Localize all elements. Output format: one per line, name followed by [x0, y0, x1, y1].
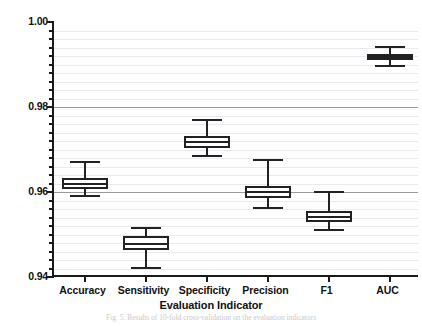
whisker-cap-upper [131, 227, 161, 229]
x-axis-label-f1: F1 [320, 284, 332, 296]
whisker-cap-lower [70, 195, 100, 197]
box-specificity [176, 22, 237, 275]
whisker-cap-upper [314, 191, 344, 193]
box-precision [237, 22, 298, 275]
box-median [245, 191, 291, 193]
x-tick-accuracy [84, 275, 86, 282]
x-tick-f1 [328, 275, 330, 282]
whisker-lower [145, 250, 147, 268]
y-tick-major [47, 276, 54, 278]
whisker-upper [145, 228, 147, 236]
y-axis-tick-label: 1.00 [28, 15, 48, 27]
figure-caption: Fig. 5. Results of 10-fold cross-validat… [0, 313, 422, 322]
whisker-cap-lower [192, 155, 222, 157]
figure-boxplot: 0.940.960.981.00 AccuracySensitivitySpec… [0, 0, 422, 327]
box-median [184, 141, 230, 143]
box-median [367, 56, 413, 58]
box-accuracy [54, 22, 115, 275]
whisker-cap-upper [192, 119, 222, 121]
x-tick-specificity [206, 275, 208, 282]
x-tick-sensitivity [145, 275, 147, 282]
box-f1 [298, 22, 359, 275]
y-axis-tick-label: 0.94 [28, 270, 48, 282]
whisker-cap-lower [375, 65, 405, 67]
plot-area [52, 22, 418, 277]
box-median [62, 183, 108, 185]
whisker-cap-lower [131, 267, 161, 269]
x-tick-auc [389, 275, 391, 282]
box-median [123, 243, 169, 245]
whisker-cap-lower [253, 207, 283, 209]
y-axis-tick-label: 0.98 [28, 100, 48, 112]
whisker-upper [389, 47, 391, 54]
x-axis-label-sensitivity: Sensitivity [118, 284, 169, 296]
box-median [306, 216, 352, 218]
whisker-upper [206, 120, 208, 136]
whisker-upper [84, 162, 86, 178]
y-axis-tick-label: 0.96 [28, 185, 48, 197]
y-tick-major [47, 106, 54, 108]
whisker-cap-upper [375, 46, 405, 48]
x-axis-label-specificity: Specificity [179, 284, 230, 296]
box-sensitivity [115, 22, 176, 275]
whisker-upper [328, 192, 330, 211]
box-auc [359, 22, 420, 275]
whisker-cap-lower [314, 229, 344, 231]
y-tick-major [47, 21, 54, 23]
x-axis-label-precision: Precision [242, 284, 288, 296]
whisker-cap-upper [253, 159, 283, 161]
whisker-upper [267, 160, 269, 186]
x-axis-label-accuracy: Accuracy [59, 284, 105, 296]
x-tick-precision [267, 275, 269, 282]
y-tick-major [47, 191, 54, 193]
whisker-cap-upper [70, 161, 100, 163]
x-axis-title: Evaluation Indicator [0, 299, 422, 311]
x-axis-label-auc: AUC [376, 284, 398, 296]
